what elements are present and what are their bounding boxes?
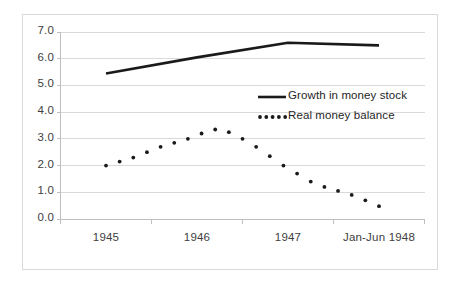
x-axis-tick-label: Jan-Jun 1948 xyxy=(329,231,429,243)
y-axis-tick-label: 2.0 xyxy=(20,158,54,170)
series-growth-in-money-stock xyxy=(106,43,379,74)
y-axis-tick-label: 7.0 xyxy=(20,24,54,36)
y-axis-tick-label: 3.0 xyxy=(20,131,54,143)
series-real-money-balance xyxy=(104,128,381,208)
y-axis-tick-label: 4.0 xyxy=(20,104,54,116)
gridlines xyxy=(57,32,425,219)
x-axis-tick-label: 1945 xyxy=(56,231,156,243)
x-axis-tick-label: 1947 xyxy=(238,231,338,243)
legend-marks xyxy=(258,97,287,119)
chart-plot xyxy=(0,0,462,289)
y-axis-tick-label: 0.0 xyxy=(20,211,54,223)
y-axis-tick-label: 5.0 xyxy=(20,77,54,89)
x-axis-tick-label: 1946 xyxy=(147,231,247,243)
axis-lines xyxy=(61,32,425,219)
y-axis-tick-label: 6.0 xyxy=(20,51,54,63)
y-axis-tick-label: 1.0 xyxy=(20,184,54,196)
x-axis-ticks xyxy=(61,219,425,224)
legend-label-growth-in-money-stock: Growth in money stock xyxy=(288,89,407,101)
legend-label-real-money-balance: Real money balance xyxy=(288,109,395,121)
